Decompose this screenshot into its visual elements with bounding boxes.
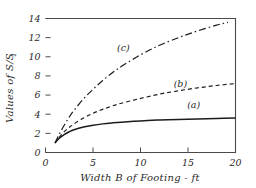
- y-tick-label: 10: [28, 51, 40, 62]
- x-tick-label: 0: [42, 157, 48, 168]
- y-tick-label: 4: [33, 109, 40, 120]
- curve-label-a: (a): [187, 99, 200, 110]
- curve-b-line: [55, 84, 236, 143]
- curve-a-line: [55, 118, 236, 143]
- y-axis-ticks: [46, 19, 51, 153]
- y-axis-tick-labels: 02468101214: [28, 13, 40, 158]
- chart-figure: 02468101214 05101520 (a)(b)(c) Width B o…: [0, 0, 256, 188]
- curve-label-b: (b): [174, 78, 188, 89]
- data-curves: [55, 22, 236, 143]
- plot-frame: [46, 19, 236, 153]
- y-tick-label: 12: [28, 32, 40, 43]
- x-axis-tick-labels: 05101520: [42, 157, 241, 168]
- x-tick-label: 10: [134, 157, 146, 168]
- curve-annotations: (a)(b)(c): [117, 42, 200, 110]
- x-axis-ticks: [46, 148, 236, 153]
- y-tick-label: 2: [33, 128, 40, 139]
- y-tick-label: 6: [34, 89, 40, 100]
- y-axis-title-group: Values of S/S 1: [4, 53, 18, 123]
- x-tick-label: 20: [228, 157, 241, 168]
- chart-plot-svg: 02468101214 05101520 (a)(b)(c) Width B o…: [0, 0, 256, 188]
- y-axis-title: Values of S/S: [4, 53, 15, 123]
- y-tick-label: 8: [34, 70, 40, 81]
- curve-c-line: [55, 22, 228, 143]
- curve-label-c: (c): [117, 42, 130, 53]
- x-tick-label: 5: [90, 157, 96, 168]
- x-axis-title: Width B of Footing - ft: [80, 172, 200, 183]
- x-tick-label: 15: [182, 157, 194, 168]
- y-axis-title-subscript: 1: [10, 53, 18, 57]
- y-tick-label: 0: [34, 147, 40, 158]
- y-tick-label: 14: [28, 13, 40, 24]
